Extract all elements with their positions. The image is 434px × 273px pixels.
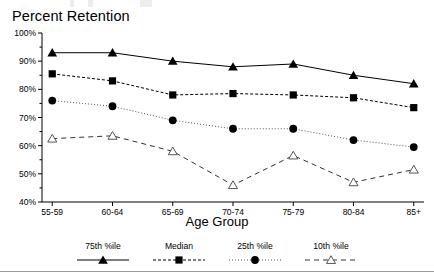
y-axis-tick-label: 50% [19, 169, 36, 179]
series-line [52, 101, 414, 147]
data-point-marker [350, 94, 357, 101]
y-axis-tick-label: 70% [19, 113, 36, 123]
chart-legend: 75th %ileMedian25th %ile10th %ile [0, 241, 434, 266]
data-point-marker [49, 70, 56, 77]
data-point-marker [169, 91, 176, 98]
data-point-marker [109, 102, 117, 110]
data-point-marker [229, 125, 237, 133]
data-point-marker [289, 151, 298, 159]
legend-swatch [227, 253, 283, 266]
data-point-marker [48, 97, 56, 105]
legend-item: Median [147, 241, 211, 266]
legend-marker-icon [251, 256, 259, 264]
series-layer [47, 48, 418, 188]
legend-swatch [75, 253, 131, 266]
legend-swatch [303, 253, 359, 266]
chart-plot-area: 100%90%80%70%60%50%40% 55-5960-6465-6970… [0, 0, 434, 273]
legend-item: 75th %ile [71, 241, 135, 266]
legend-item: 10th %ile [299, 241, 363, 266]
legend-item-label: 75th %ile [85, 241, 120, 252]
y-axis-tick-label: 40% [19, 197, 36, 207]
legend-item-label: 10th %ile [313, 241, 348, 252]
chart-container: Percent Retention 100%90%80%70%60%50%40%… [0, 0, 434, 273]
data-point-marker [169, 116, 177, 124]
y-axis-tick-label: 90% [19, 56, 36, 66]
data-point-marker [229, 90, 236, 97]
y-axis-tick-label: 60% [19, 141, 36, 151]
data-point-marker [350, 136, 358, 144]
data-point-marker [288, 59, 298, 67]
y-axis: 100%90%80%70%60%50%40% [14, 28, 42, 207]
legend-item-label: 25th %ile [237, 241, 272, 252]
data-point-marker [409, 165, 418, 173]
data-point-marker [228, 181, 237, 189]
data-point-marker [410, 143, 418, 151]
bottom-divider [0, 271, 434, 272]
legend-item: 25th %ile [223, 241, 287, 266]
legend-swatch [151, 253, 207, 266]
legend-item-label: Median [165, 241, 193, 252]
x-axis-title: Age Group [0, 214, 434, 229]
y-axis-tick-label: 100% [14, 28, 36, 38]
data-point-marker [109, 77, 116, 84]
series-line [52, 136, 414, 185]
data-point-marker [290, 91, 297, 98]
y-axis-tick-label: 80% [19, 84, 36, 94]
data-point-marker [108, 132, 117, 140]
legend-marker-icon [175, 256, 182, 263]
data-point-marker [289, 125, 297, 133]
data-point-marker [410, 104, 417, 111]
